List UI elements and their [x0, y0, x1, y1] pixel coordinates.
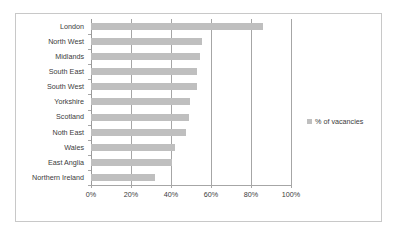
value-tick-label: 100%: [282, 190, 300, 199]
category-tick: [88, 64, 91, 65]
category-label: North West: [24, 34, 87, 49]
bar-row: [91, 79, 291, 94]
category-label: Noth East: [24, 125, 87, 140]
category-tick: [88, 110, 91, 111]
value-tick-100%: [291, 185, 292, 188]
bar: [91, 114, 189, 121]
bar: [91, 53, 200, 60]
category-tick: [88, 125, 91, 126]
category-label: East Anglia: [24, 155, 87, 170]
value-tick-label: 60%: [204, 190, 218, 199]
bar: [91, 159, 172, 166]
bar: [91, 83, 197, 90]
bar-row: [91, 140, 291, 155]
value-tick-60%: [211, 185, 212, 188]
bar-row: [91, 64, 291, 79]
bar-row: [91, 125, 291, 140]
category-tick: [88, 140, 91, 141]
bar: [91, 68, 197, 75]
bar-row: [91, 19, 291, 34]
bar: [91, 38, 202, 45]
bar: [91, 98, 190, 105]
category-tick: [88, 185, 91, 186]
category-tick: [88, 34, 91, 35]
bar-row: [91, 109, 291, 124]
category-tick: [88, 49, 91, 50]
category-tick: [88, 170, 91, 171]
bar: [91, 144, 175, 151]
chart-legend: % of vacancies: [307, 117, 363, 126]
bar-chart-figure: LondonNorth WestMidlandsSouth EastSouth …: [0, 0, 397, 237]
bar-row: [91, 94, 291, 109]
value-tick-40%: [171, 185, 172, 188]
value-tick-0%: [91, 185, 92, 188]
value-axis-labels: 0%20%40%60%80%100%: [91, 190, 291, 202]
category-label: South West: [24, 79, 87, 94]
bar: [91, 174, 155, 181]
category-label: Scotland: [24, 109, 87, 124]
bar-row: [91, 34, 291, 49]
value-tick-80%: [251, 185, 252, 188]
category-axis-labels: LondonNorth WestMidlandsSouth EastSouth …: [24, 19, 87, 185]
value-tick-20%: [131, 185, 132, 188]
gridline-100%: [291, 19, 292, 185]
bar: [91, 23, 263, 30]
value-tick-label: 20%: [124, 190, 138, 199]
bar-row: [91, 49, 291, 64]
category-tick: [88, 155, 91, 156]
category-label: Northern Ireland: [24, 170, 87, 185]
value-tick-label: 0%: [86, 190, 96, 199]
category-axis-line: [91, 185, 291, 186]
value-tick-label: 40%: [164, 190, 178, 199]
category-label: Midlands: [24, 49, 87, 64]
bar-row: [91, 155, 291, 170]
category-label: Wales: [24, 140, 87, 155]
legend-swatch-icon: [307, 119, 312, 124]
category-label: South East: [24, 64, 87, 79]
bar-row: [91, 170, 291, 185]
category-label: London: [24, 19, 87, 34]
category-tick: [88, 79, 91, 80]
value-tick-label: 80%: [244, 190, 258, 199]
category-label: Yorkshire: [24, 94, 87, 109]
bars-layer: [91, 19, 291, 185]
category-tick: [88, 94, 91, 95]
legend-label: % of vacancies: [315, 117, 363, 126]
bar: [91, 129, 186, 136]
